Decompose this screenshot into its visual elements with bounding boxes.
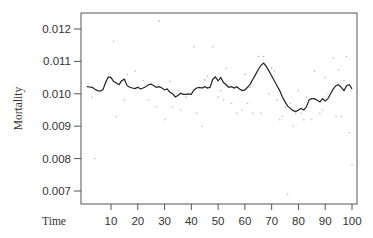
data-point	[185, 96, 187, 98]
data-point	[116, 116, 118, 118]
data-point	[223, 100, 225, 102]
data-point	[333, 57, 335, 59]
data-point	[196, 112, 198, 114]
data-point	[298, 90, 300, 92]
data-point	[193, 46, 195, 48]
data-point	[268, 93, 270, 95]
data-point	[148, 100, 150, 102]
data-point	[276, 100, 278, 102]
data-point	[113, 41, 115, 43]
data-point	[201, 125, 203, 127]
data-point	[324, 77, 326, 79]
data-point	[322, 109, 324, 111]
data-point	[164, 119, 166, 121]
data-point	[351, 164, 353, 166]
data-point	[204, 79, 206, 81]
data-point	[343, 80, 345, 82]
data-point	[236, 112, 238, 114]
data-point	[284, 106, 286, 108]
x-tick-label: 60	[238, 215, 251, 227]
data-point	[172, 106, 174, 108]
data-point	[346, 56, 348, 58]
data-point	[169, 81, 171, 83]
data-point	[258, 56, 260, 58]
data-point	[241, 109, 243, 111]
data-point	[306, 96, 308, 98]
data-point	[124, 100, 126, 102]
data-point	[349, 132, 351, 134]
y-tick-label: 0.007	[42, 185, 71, 197]
y-tick-label: 0.012	[42, 23, 71, 35]
smoothed-line	[87, 63, 352, 112]
y-tick-label: 0.009	[42, 120, 71, 132]
data-point	[260, 112, 262, 114]
data-point	[271, 67, 273, 69]
data-point	[247, 103, 249, 105]
data-point	[263, 56, 265, 58]
data-point	[126, 74, 128, 76]
data-point	[134, 70, 136, 72]
x-tick-label: 40	[185, 215, 198, 227]
data-point	[180, 109, 182, 111]
data-point	[158, 20, 160, 22]
y-axis-title: Mortality	[12, 87, 25, 131]
scatter-points	[92, 20, 353, 195]
x-tick-label: 20	[131, 215, 144, 227]
data-point	[292, 125, 294, 127]
data-point	[217, 96, 219, 98]
x-tick-label: 70	[265, 215, 278, 227]
data-point	[252, 112, 254, 114]
data-point	[282, 116, 284, 118]
x-tick-label: 10	[105, 215, 118, 227]
x-tick-label: 50	[212, 215, 225, 227]
data-point	[249, 87, 251, 89]
x-tick-label: 80	[292, 215, 305, 227]
data-point	[212, 46, 214, 48]
y-tick-label: 0.008	[42, 153, 71, 165]
mortality-chart: 0.0070.0080.0090.0100.0110.012 102030405…	[0, 0, 373, 238]
data-point	[319, 112, 321, 114]
data-point	[156, 106, 158, 108]
data-point	[225, 68, 227, 70]
y-tick-label: 0.010	[42, 88, 71, 100]
data-point	[207, 75, 209, 77]
data-point	[341, 116, 343, 118]
data-point	[142, 80, 144, 82]
data-point	[177, 90, 179, 92]
plot-frame	[81, 13, 357, 204]
x-tick-label: 90	[319, 215, 332, 227]
data-point	[220, 90, 222, 92]
x-axis-title: Time	[42, 215, 66, 227]
y-tick-label: 0.011	[43, 55, 71, 67]
data-point	[290, 103, 292, 105]
x-tick-label: 100	[342, 215, 361, 227]
data-point	[94, 158, 96, 160]
data-point	[295, 112, 297, 114]
data-point	[311, 119, 313, 121]
data-point	[300, 112, 302, 114]
data-point	[314, 70, 316, 72]
data-point	[231, 103, 233, 105]
data-point	[274, 70, 276, 72]
data-point	[303, 119, 305, 121]
data-point	[92, 96, 94, 98]
data-point	[335, 116, 337, 118]
data-point	[327, 93, 329, 95]
data-point	[279, 119, 281, 121]
y-axis: 0.0070.0080.0090.0100.0110.012	[42, 23, 81, 197]
x-axis: 102030405060708090100	[105, 204, 362, 227]
data-point	[244, 74, 246, 76]
data-point	[287, 193, 289, 195]
x-tick-label: 30	[158, 215, 171, 227]
data-point	[338, 69, 340, 71]
